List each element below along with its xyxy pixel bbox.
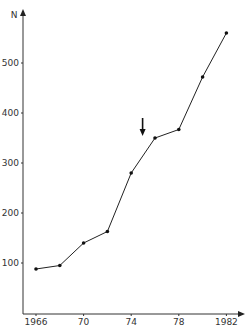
- x-tick-label: 1966: [25, 317, 48, 327]
- y-axis-label: N: [11, 10, 18, 20]
- line-chart: N 10020030040050019667074781982: [0, 0, 249, 327]
- data-point: [153, 136, 157, 140]
- arrow-head-icon: [140, 129, 146, 136]
- data-point: [58, 264, 62, 268]
- data-points: [34, 31, 228, 271]
- y-tick-label: 300: [2, 158, 19, 168]
- x-axis-arrow-icon: [238, 311, 245, 317]
- data-point: [177, 128, 181, 132]
- data-point: [34, 267, 38, 271]
- y-tick-label: 400: [2, 108, 19, 118]
- data-line: [36, 33, 226, 269]
- y-tick-label: 100: [2, 258, 19, 268]
- x-tick-label: 1982: [215, 317, 238, 327]
- annotations: [140, 118, 146, 136]
- data-point: [106, 230, 110, 234]
- data-point: [82, 241, 86, 245]
- data-point: [129, 171, 133, 175]
- ticks: 10020030040050019667074781982: [2, 58, 238, 327]
- data-point: [201, 75, 205, 79]
- y-tick-label: 500: [2, 58, 19, 68]
- data-point: [225, 31, 229, 35]
- x-tick-label: 74: [125, 317, 137, 327]
- y-tick-label: 200: [2, 208, 19, 218]
- axes: N: [11, 9, 245, 317]
- y-axis-arrow-icon: [20, 9, 26, 16]
- x-tick-label: 70: [78, 317, 90, 327]
- x-tick-label: 78: [173, 317, 185, 327]
